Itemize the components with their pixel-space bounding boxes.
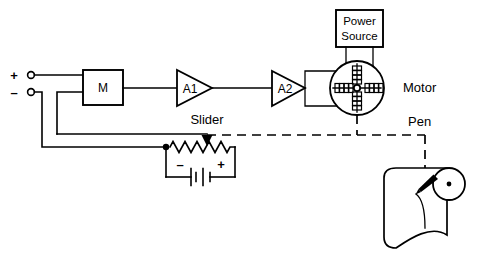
amplifier-a1[interactable]: A1	[177, 70, 212, 106]
chart-roller-axle	[447, 182, 452, 187]
amplifier-a2[interactable]: A2	[272, 71, 305, 106]
negative-sign-label: –	[10, 85, 17, 100]
motor-shaft-hub	[354, 85, 360, 91]
mechanical-linkage-group	[207, 115, 425, 170]
modulator-label: M	[98, 81, 108, 95]
wire-feedback-to-m	[57, 92, 83, 134]
negative-terminal-ring[interactable]	[28, 89, 35, 96]
positive-sign-label: +	[10, 68, 18, 83]
slider-assembly[interactable]: Slider	[190, 112, 224, 146]
potentiometer-resistor	[170, 142, 235, 153]
amplifier-a1-label: A1	[183, 82, 198, 96]
input-terminal-group: + –	[10, 68, 34, 100]
motor-label: Motor	[403, 80, 437, 95]
battery-negative-label: –	[176, 157, 183, 172]
chart-recorder-group[interactable]: Pen	[384, 114, 465, 248]
amplifier-a2-label: A2	[278, 82, 293, 96]
battery-symbol	[191, 169, 210, 186]
power-source-label-line2: Source	[341, 30, 377, 42]
slider-label: Slider	[190, 112, 224, 127]
feedback-potentiometer-group[interactable]: – +	[163, 142, 235, 186]
positive-terminal-ring[interactable]	[28, 72, 35, 79]
power-source-label-line1: Power	[343, 15, 376, 27]
modulator-block[interactable]: M	[83, 70, 123, 105]
circuit-diagram: + – M A1 A2 Power Source	[0, 0, 477, 262]
battery-positive-label: +	[217, 157, 225, 172]
schematic-canvas: + – M A1 A2 Power Source	[0, 0, 477, 262]
pen-label: Pen	[408, 114, 431, 129]
motor-assembly[interactable]: Motor	[330, 61, 437, 115]
